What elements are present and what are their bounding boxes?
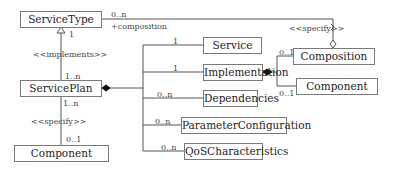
class-name: Component [31, 147, 92, 159]
class-name: QoSCharacteristics [185, 145, 288, 157]
multiplicity-label: 1..n [65, 72, 80, 81]
aggregation-diamond-icon [330, 40, 336, 48]
multiplicity-label: 1..n [63, 99, 78, 108]
stereotype-label: <<specify>> [31, 117, 86, 126]
class-dependencies[interactable]: Dependencies [203, 90, 258, 107]
multiplicity-label: 1 [173, 64, 178, 73]
class-component-left[interactable]: Component [14, 145, 109, 162]
stereotype-label: <<specify>> [289, 24, 344, 33]
class-name: ServiceType [28, 13, 94, 25]
class-name: Service [213, 39, 253, 51]
multiplicity-label: 0..1 [279, 89, 294, 98]
class-service-plan[interactable]: ServicePlan [20, 80, 102, 97]
class-name: Dependencies [204, 92, 279, 104]
class-composition[interactable]: Composition [293, 48, 375, 65]
class-component-right[interactable]: Component [296, 78, 378, 95]
class-qos-characteristics[interactable]: QoSCharacteristics [184, 143, 263, 160]
class-name: Implementation [204, 66, 288, 78]
multiplicity-label: 0..n [161, 143, 176, 152]
class-parameter-configuration[interactable]: ParameterConfiguration [181, 117, 287, 134]
multiplicity-label: 1 [173, 37, 178, 46]
stereotype-label: <<implements>> [33, 50, 107, 59]
multiplicity-label: 0..n [157, 90, 172, 99]
multiplicity-label: 0..n [111, 10, 126, 19]
composition-diamond-icon [102, 85, 110, 91]
role-label: +composition [111, 22, 167, 31]
class-implementation[interactable]: Implementation [203, 64, 263, 81]
class-name: Component [306, 80, 367, 92]
multiplicity-label: 0..1 [66, 135, 81, 144]
class-service[interactable]: Service [203, 37, 262, 54]
class-name: ParameterConfiguration [182, 119, 311, 131]
multiplicity-label: 0..n [155, 117, 170, 126]
class-service-type[interactable]: ServiceType [20, 11, 102, 28]
class-name: Composition [301, 50, 368, 62]
multiplicity-label: 1 [69, 30, 74, 39]
multiplicity-label: 0..1 [279, 48, 294, 57]
class-name: ServicePlan [29, 82, 92, 94]
